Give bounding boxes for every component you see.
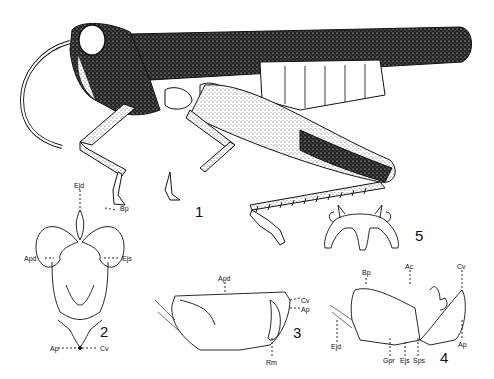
fig4-label-bp: Bp: [362, 269, 371, 276]
fig3-label-rm: Rm: [266, 359, 277, 366]
fig2-label-ejs: Ejs: [122, 255, 132, 262]
figure-number-3: 3: [293, 325, 301, 340]
fore-femur: [80, 104, 135, 145]
figure-number-4: 4: [440, 350, 448, 365]
fig4-label-gpr: Gpr: [383, 357, 395, 364]
fig2-label-ap: Ap: [50, 345, 59, 352]
figure-1-grasshopper: [22, 23, 472, 245]
fig2-label-apd: Apd: [24, 255, 36, 262]
figure-number-2: 2: [100, 324, 108, 339]
fig3-label-apd: Apd: [218, 275, 230, 282]
compound-eye: [79, 25, 105, 55]
hind-tibia: [250, 182, 385, 210]
fig4-label-ejs: Ejs: [400, 357, 410, 364]
hind-tarsus: [250, 210, 285, 245]
figure-number-5: 5: [415, 228, 423, 243]
fig4-label-ejd: Ejd: [331, 343, 341, 350]
fig3-label-cv: Cv: [301, 297, 310, 304]
fig4-label-cv: Cv: [457, 263, 466, 270]
fig2-label-bp: Bp: [120, 205, 129, 212]
figure-2-diagram: [36, 190, 124, 350]
fig4-label-sps: Sps: [413, 357, 425, 364]
plate-illustration: [0, 0, 494, 379]
fig2-label-cv: Cv: [100, 345, 109, 352]
fig4-label-ac: Ac: [405, 263, 413, 270]
fig2-label-ejd: Ejd: [74, 182, 84, 189]
figure-3-diagram: [155, 282, 300, 358]
fig4-label-ap: Ap: [458, 341, 467, 348]
antenna: [22, 42, 70, 147]
fig3-label-ap: Ap: [301, 306, 310, 313]
figure-5-epiphallus: [325, 205, 399, 250]
figure-number-1: 1: [195, 204, 203, 219]
figure-4-diagram: [330, 270, 465, 356]
